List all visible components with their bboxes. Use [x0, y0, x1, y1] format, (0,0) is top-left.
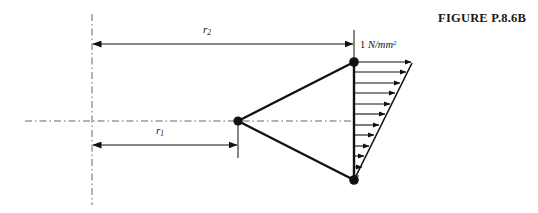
pressure-envelope: [354, 63, 412, 180]
vertex-dot-top: [349, 57, 359, 67]
pressure-magnitude-label: 1 N/mm2: [360, 40, 397, 51]
pressure-unit-exponent: 2: [393, 39, 397, 47]
pressure-unit: N/mm: [368, 39, 393, 50]
vertex-dot-apex: [233, 116, 242, 125]
dimension-label-r2-subscript: 2: [207, 28, 211, 37]
dimension-label-r2: r2: [203, 24, 211, 37]
figure-drawing: [0, 0, 538, 213]
vertex-dot-bottom: [349, 175, 359, 185]
wedge-lower-edge: [238, 121, 354, 180]
figure-container: FIGURE P.8.6B r2 r1 1 N/mm2: [0, 0, 538, 213]
dimension-label-r1-subscript: 1: [160, 129, 164, 138]
wedge-upper-edge: [238, 62, 354, 121]
dimension-lines: [93, 30, 354, 158]
dimension-label-r1: r1: [156, 125, 164, 138]
centerline-axes: [25, 14, 354, 205]
pressure-distribution: [354, 62, 412, 180]
figure-caption: FIGURE P.8.6B: [438, 12, 526, 25]
pressure-value: 1: [360, 39, 365, 50]
